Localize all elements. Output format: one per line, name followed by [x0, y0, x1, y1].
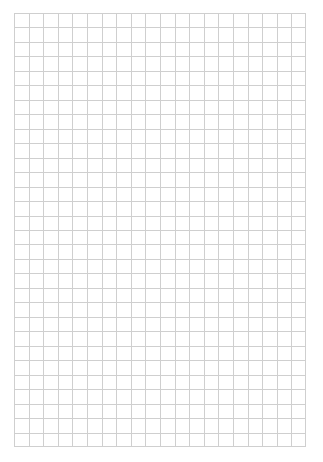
- graph-paper-grid: [14, 13, 306, 447]
- grid-lines: [14, 13, 306, 447]
